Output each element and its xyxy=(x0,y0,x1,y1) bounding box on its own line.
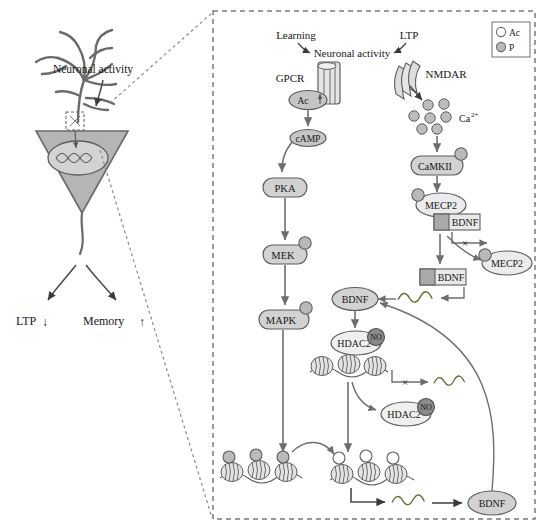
diagram-root: Neuronal activity LTP ↓ Memory ↑ Ac P Le… xyxy=(0,0,542,532)
histone-phospho-icon-1 xyxy=(223,451,235,463)
hdac2-chromatin-no-label: NO xyxy=(370,333,382,342)
legend-ac-label: Ac xyxy=(509,28,520,38)
nmdar-label: NMDAR xyxy=(426,68,468,80)
gpcr-label: GPCR xyxy=(276,72,305,84)
chromatin-condensed xyxy=(310,355,388,378)
memory-outcome-label: Memory xyxy=(83,314,124,328)
mecp2-bound-label: MECP2 xyxy=(425,200,457,211)
mecp2-released-label: MECP2 xyxy=(491,258,523,269)
bdnf-blocked-transcription-arrow xyxy=(452,232,487,243)
hdac2-released-label: HDAC2 xyxy=(387,409,420,420)
stimulus-learning-label: Learning xyxy=(276,29,316,41)
zoom-connector-lines xyxy=(100,13,212,518)
bdnf-gene-active-label: BDNF xyxy=(438,272,465,283)
bdnf-protein-upper-label: BDNF xyxy=(342,294,369,305)
neuronal-activity-label-line1: Neuronal activity xyxy=(53,63,133,76)
hdac2-released-no-label: NO xyxy=(420,403,432,412)
dendrite-branches xyxy=(36,30,116,122)
neuronal-activity-hub-label: Neuronal activity xyxy=(314,47,391,59)
calcium-charge-superscript: 2+ xyxy=(471,111,479,119)
stimulus-ltp-label: LTP xyxy=(400,29,419,41)
histone-acetyl-icon-3 xyxy=(387,452,399,464)
legend-p-label: P xyxy=(509,43,514,53)
histone-acetyl-icon-2 xyxy=(360,450,372,462)
legend-ac-icon xyxy=(496,27,505,36)
blocked-transcription-chromatin-mark: × xyxy=(402,376,408,388)
mapk-phospho-icon xyxy=(300,302,312,314)
bdnf-mrna-upper xyxy=(398,292,432,302)
mapk-label: MAPK xyxy=(266,315,297,326)
legend: Ac P xyxy=(492,22,530,57)
neuron-illustration: Neuronal activity LTP ↓ Memory ↑ xyxy=(16,30,145,329)
axon xyxy=(80,213,83,254)
bdnf-promoter-active xyxy=(420,269,435,285)
camp-label: cAMP xyxy=(296,134,321,144)
blocked-mrna xyxy=(434,376,465,385)
ltp-stimulus-arrow xyxy=(394,43,406,53)
calcium-ions xyxy=(409,99,451,134)
blocked-transcription-bdnf-mark: × xyxy=(462,237,468,249)
camkii-label: CaMKII xyxy=(418,161,452,172)
ltp-outcome-label: LTP xyxy=(16,314,37,328)
histone-modification-transfer-arrow xyxy=(292,442,334,454)
histone-phospho-icon-3 xyxy=(277,451,289,463)
nucleus xyxy=(48,141,108,175)
pathway-diagram: Neuronal activity LTP ↓ Memory ↑ Ac P Le… xyxy=(0,0,542,532)
chromatin-blocked-transcription-arrow xyxy=(392,370,428,382)
pka-label: PKA xyxy=(274,183,295,194)
bdnf-transcription-arrow xyxy=(441,287,464,298)
ltp-arrow xyxy=(48,265,76,300)
bdnf-protein-lower-label: BDNF xyxy=(479,498,506,509)
bdnf-promoter-repressed xyxy=(434,214,449,230)
histone-acetyl-icon-1 xyxy=(333,452,345,464)
histone-phospho-icon-2 xyxy=(250,449,262,461)
bdnf-mrna-lower xyxy=(392,495,424,505)
mecp2-released-phospho-icon xyxy=(479,249,491,261)
adenylyl-cyclase-label: Ac xyxy=(297,96,308,106)
active-transcription-arrow xyxy=(351,488,385,502)
camkii-phospho-icon xyxy=(455,148,467,160)
chromatin-phospho-group xyxy=(220,449,302,483)
calcium-label: Ca xyxy=(459,113,471,124)
hdac2-chromatin-label: HDAC2 xyxy=(337,338,370,349)
ltp-outcome-arrow-glyph: ↓ xyxy=(42,315,48,329)
mek-phospho-icon xyxy=(299,237,311,249)
camp-to-pka-arrow xyxy=(282,142,292,172)
learning-arrow xyxy=(298,43,310,53)
chromatin-acetyl-group xyxy=(330,450,414,485)
legend-p-icon xyxy=(496,42,505,51)
mecp2-bound-phospho-icon xyxy=(412,189,424,201)
hdac2-dissociation-arrow xyxy=(352,382,376,410)
bdnf-gene-repressed-label: BDNF xyxy=(452,217,479,228)
gpcr-top xyxy=(318,63,336,70)
mek-label: MEK xyxy=(271,250,295,261)
memory-outcome-arrow-glyph: ↑ xyxy=(139,315,145,329)
memory-arrow xyxy=(86,265,116,300)
